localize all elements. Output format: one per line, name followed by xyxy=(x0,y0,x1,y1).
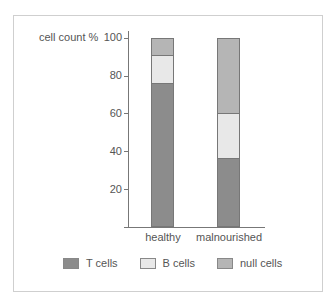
x-category-malnourished: malnourished xyxy=(193,231,265,243)
y-tick-label-100: 100 xyxy=(96,31,122,43)
legend-swatch-b-cells xyxy=(140,258,156,269)
y-axis-label: cell count % xyxy=(39,31,98,43)
bar-segment-t-cells xyxy=(217,158,240,227)
y-tick-label-40: 40 xyxy=(96,145,122,157)
bar-segment-t-cells xyxy=(151,83,174,227)
y-tick xyxy=(124,76,128,77)
legend-item-b-cells: B cells xyxy=(140,257,195,269)
legend-swatch-null-cells xyxy=(217,258,233,269)
legend-label: null cells xyxy=(240,257,282,269)
y-tick-label-20: 20 xyxy=(96,183,122,195)
legend: T cells B cells null cells xyxy=(63,257,300,269)
bar-segment-null-cells xyxy=(217,38,240,114)
bar-segment-b-cells xyxy=(151,55,174,84)
legend-swatch-t-cells xyxy=(63,258,79,269)
y-axis xyxy=(128,31,129,228)
legend-label: T cells xyxy=(86,257,118,269)
bar-malnourished xyxy=(217,38,240,227)
legend-item-null-cells: null cells xyxy=(217,257,282,269)
y-tick xyxy=(124,113,128,114)
bar-healthy xyxy=(151,38,174,227)
y-tick xyxy=(124,151,128,152)
y-tick-label-80: 80 xyxy=(96,69,122,81)
bar-segment-b-cells xyxy=(217,113,240,159)
legend-label: B cells xyxy=(163,257,195,269)
x-axis xyxy=(124,227,265,228)
legend-item-t-cells: T cells xyxy=(63,257,118,269)
y-tick xyxy=(124,38,128,39)
x-category-healthy: healthy xyxy=(140,231,186,243)
y-tick xyxy=(124,189,128,190)
y-tick-label-60: 60 xyxy=(96,107,122,119)
bar-segment-null-cells xyxy=(151,38,174,56)
